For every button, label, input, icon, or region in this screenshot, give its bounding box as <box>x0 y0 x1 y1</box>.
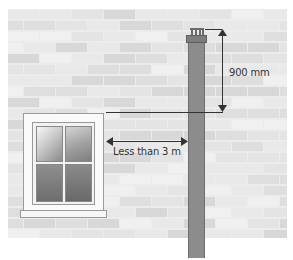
brick <box>72 10 103 19</box>
window-reference-line <box>106 112 223 113</box>
window-pane-top-left <box>36 126 63 162</box>
brick <box>232 120 263 129</box>
brick <box>280 65 287 74</box>
brick <box>264 120 287 129</box>
brick <box>8 197 23 206</box>
brick <box>24 219 55 228</box>
brick <box>248 175 279 184</box>
brick <box>104 98 135 107</box>
brick <box>56 21 87 30</box>
brick <box>136 10 167 19</box>
brick <box>104 230 135 238</box>
brick <box>120 197 151 206</box>
brick <box>152 65 183 74</box>
brick <box>280 43 287 52</box>
brick <box>88 87 119 96</box>
brick-row <box>8 86 287 97</box>
brick <box>136 164 167 173</box>
brick <box>152 43 183 52</box>
brick <box>264 54 287 63</box>
brick <box>40 230 71 238</box>
brick <box>248 87 279 96</box>
brick <box>248 109 279 118</box>
brick <box>120 131 151 140</box>
brick <box>8 21 23 30</box>
brick-row <box>8 229 287 238</box>
brick <box>136 54 167 63</box>
brick <box>104 120 135 129</box>
window-pane-bottom-left <box>36 164 63 202</box>
brick <box>104 10 135 19</box>
arrow-left-icon <box>106 137 113 146</box>
brick <box>152 109 183 118</box>
brick <box>8 219 23 228</box>
brick <box>200 10 231 19</box>
brick <box>136 76 167 85</box>
brick <box>104 54 135 63</box>
brick <box>104 32 135 41</box>
brick <box>216 175 247 184</box>
brick <box>56 219 87 228</box>
brick <box>152 175 183 184</box>
brick <box>24 87 55 96</box>
brick <box>40 98 71 107</box>
brick <box>232 142 263 151</box>
brick <box>216 219 247 228</box>
brick <box>264 230 287 238</box>
brick <box>104 186 135 195</box>
brick <box>248 43 279 52</box>
brick <box>8 131 23 140</box>
brick <box>264 186 287 195</box>
brick <box>8 32 39 41</box>
brick <box>88 65 119 74</box>
brick <box>8 98 39 107</box>
brick <box>264 10 287 19</box>
brick <box>8 65 23 74</box>
brick <box>264 142 287 151</box>
brick <box>8 175 23 184</box>
brick <box>72 98 103 107</box>
brick <box>120 43 151 52</box>
brick <box>136 186 167 195</box>
brick <box>24 43 55 52</box>
brick <box>56 87 87 96</box>
brick <box>88 43 119 52</box>
flue-collar <box>186 35 207 43</box>
brick <box>152 131 183 140</box>
window-pane-top-right <box>65 126 92 162</box>
brick <box>120 219 151 228</box>
brick <box>232 98 263 107</box>
brick <box>56 43 87 52</box>
brick <box>232 230 263 238</box>
brick <box>8 43 23 52</box>
brick <box>8 153 23 162</box>
brick <box>264 32 287 41</box>
brick <box>168 10 199 19</box>
brick <box>280 219 287 228</box>
brick <box>248 131 279 140</box>
brick <box>120 87 151 96</box>
brick <box>248 197 279 206</box>
brick <box>40 54 71 63</box>
vertical-dimension-label: 900 mm <box>229 67 270 78</box>
horizontal-dimension-label: Less than 3 m <box>113 146 181 157</box>
brick <box>280 197 287 206</box>
brick <box>120 175 151 184</box>
brick <box>8 109 23 118</box>
brick <box>232 54 263 63</box>
arrow-right-icon <box>181 137 188 146</box>
flue-cap-slat <box>199 30 201 35</box>
brick <box>8 87 23 96</box>
brick <box>104 164 135 173</box>
brick <box>136 32 167 41</box>
brick-row <box>8 42 287 53</box>
window-sash <box>32 122 95 205</box>
brick-row <box>8 53 287 64</box>
brick <box>216 197 247 206</box>
brick <box>136 120 167 129</box>
brick <box>120 109 151 118</box>
brick <box>248 21 279 30</box>
brick <box>152 87 183 96</box>
brick <box>72 230 103 238</box>
vertical-dimension-line <box>222 30 223 111</box>
